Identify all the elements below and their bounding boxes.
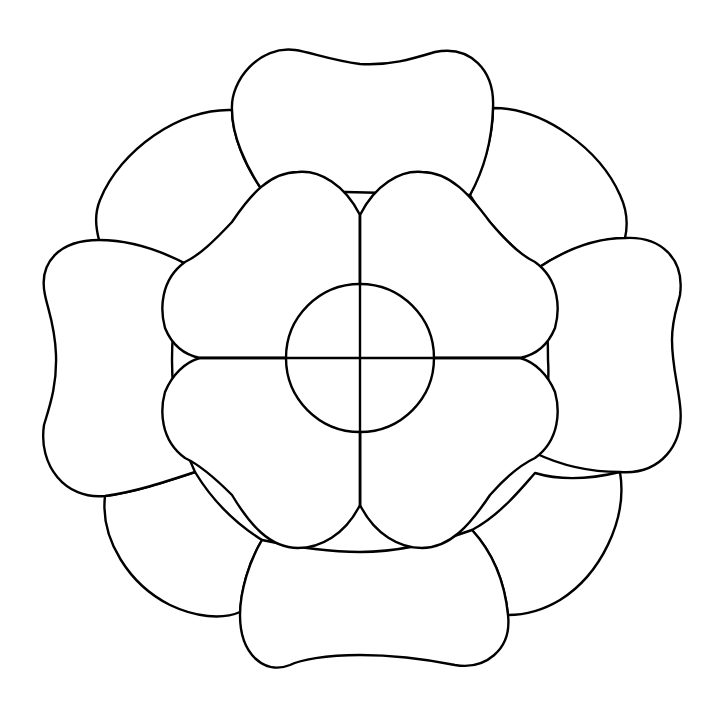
outer-petal-top bbox=[232, 50, 493, 195]
rose-svg bbox=[0, 0, 721, 706]
rose-drawing bbox=[0, 0, 721, 706]
outer-petal-right bbox=[535, 238, 681, 472]
outer-petal-bottom bbox=[240, 530, 508, 668]
